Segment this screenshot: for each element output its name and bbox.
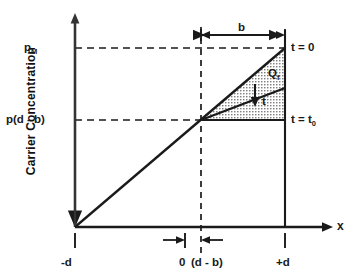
y-axis-title: Carrier Concentration [24, 36, 38, 186]
curve-t-equals-0 [75, 48, 285, 227]
span-label-b: b [238, 21, 245, 33]
x-tick-label-minus-d: -d [61, 256, 72, 268]
x-axis-title: x [337, 219, 344, 233]
curve-label-t-equals-0: t = 0 [291, 41, 314, 53]
x-tick-label-plus-d: +d [276, 256, 290, 268]
axis-gap-indicators [163, 236, 223, 243]
curve-label-t-equals-t0: t = t0 [291, 113, 316, 128]
y-tick-label-pdb: p(d - b) [6, 113, 45, 125]
x-tick-label-d-minus-b: (d - b) [191, 256, 223, 268]
x-tick-label-zero: 0 [179, 256, 185, 268]
y-tick-label-pm: pM [24, 41, 37, 56]
region-label-qf: Qf [268, 67, 279, 82]
time-arrow-label: t [262, 95, 266, 107]
x-axis-arrowhead [322, 222, 333, 231]
